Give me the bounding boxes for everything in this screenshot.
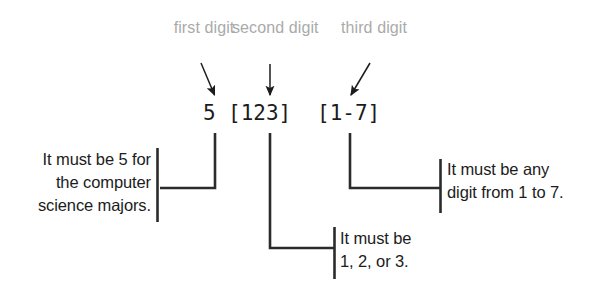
digit-pattern-diagram: first digit second digit third digit 5 [… [0,0,610,285]
connector-first-digit [160,133,215,188]
connector-second-digit [270,133,334,248]
connector-third-digit [350,133,440,188]
arrow-down-right-icon [201,63,215,95]
connector-linework [0,0,610,285]
arrow-down-left-icon [351,63,370,95]
